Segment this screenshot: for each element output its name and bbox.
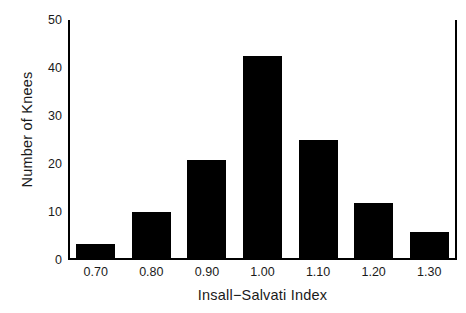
x-axis-tick-labels: 0.700.800.901.001.101.201.30	[68, 266, 457, 284]
bar	[410, 232, 449, 258]
y-tick-label: 10	[38, 206, 62, 219]
bar	[299, 140, 338, 258]
x-tick-label: 1.20	[361, 266, 385, 279]
x-tick-label: 0.70	[84, 266, 108, 279]
bar	[354, 203, 393, 258]
bar	[187, 160, 226, 258]
bar	[76, 244, 115, 258]
histogram-figure: Number of Knees 01020304050 0.700.800.90…	[0, 0, 466, 313]
bar	[132, 212, 171, 258]
y-tick-label: 50	[38, 14, 62, 27]
x-tick-label: 0.80	[139, 266, 163, 279]
x-axis-title: Insall−Salvati Index	[68, 287, 457, 303]
y-axis-title: Number of Knees	[14, 0, 40, 259]
y-tick-label: 0	[38, 254, 62, 267]
x-tick-label: 1.00	[250, 266, 274, 279]
x-tick-label: 1.10	[306, 266, 330, 279]
bar-series	[68, 20, 457, 260]
y-tick-label: 40	[38, 62, 62, 75]
x-tick-label: 1.30	[417, 266, 441, 279]
x-tick-label: 0.90	[195, 266, 219, 279]
y-axis-tick-labels: 01020304050	[38, 0, 62, 313]
bar	[243, 56, 282, 258]
y-tick-label: 20	[38, 158, 62, 171]
plot-area	[68, 20, 457, 260]
y-tick-label: 30	[38, 110, 62, 123]
